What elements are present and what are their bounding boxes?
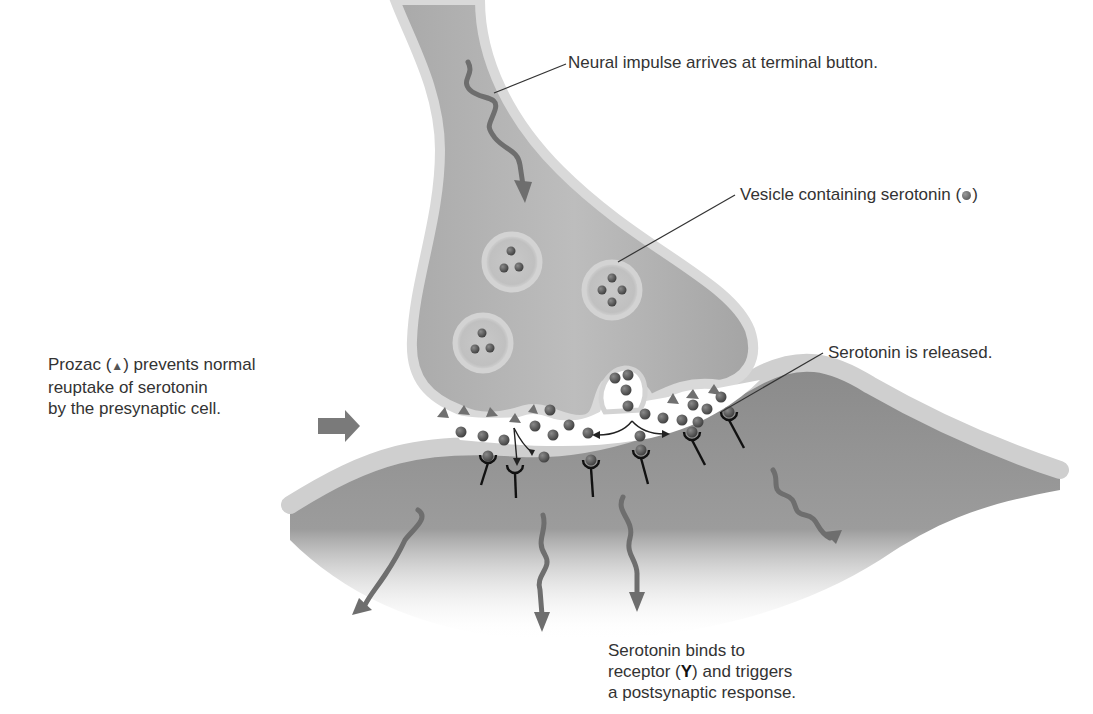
binds-label-suffix: ) and triggers — [692, 662, 792, 681]
vesicle — [455, 315, 511, 371]
binds-label-prefix: receptor ( — [608, 662, 681, 681]
vesicle-label: Vesicle containing serotonin () — [740, 184, 978, 205]
prozac-label-line2: reuptake of serotonin — [48, 377, 255, 398]
prozac-label-suffix: ) prevents normal — [123, 355, 255, 374]
binds-label-line1: Serotonin binds to — [608, 640, 796, 661]
vesicle — [484, 234, 540, 290]
prozac-label-prefix: Prozac ( — [48, 355, 111, 374]
impulse-label: Neural impulse arrives at terminal butto… — [568, 52, 878, 73]
vesicle — [584, 262, 640, 318]
binds-label: Serotonin binds to receptor (Y) and trig… — [608, 640, 796, 703]
prozac-label: Prozac (▲) prevents normal reuptake of s… — [48, 354, 255, 419]
receptor-y-icon: Y — [681, 661, 692, 682]
prozac-pointer-arrow — [318, 410, 360, 442]
released-label: Serotonin is released. — [828, 342, 992, 363]
vesicle-label-text: Vesicle containing serotonin ( — [740, 185, 961, 204]
prozac-triangle-icon: ▲ — [111, 356, 123, 377]
binds-label-line3: a postsynaptic response. — [608, 682, 796, 703]
serotonin-legend-icon — [962, 191, 971, 200]
prozac-label-line3: by the presynaptic cell. — [48, 398, 255, 419]
vesicle-label-suffix: ) — [972, 185, 978, 204]
